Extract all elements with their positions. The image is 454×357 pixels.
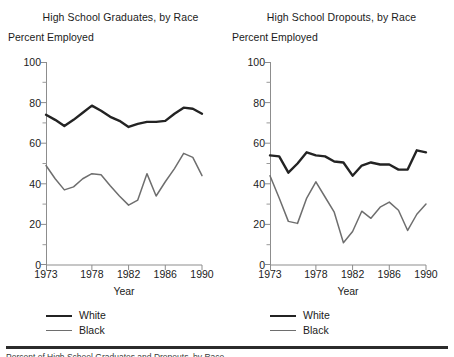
axis-spines	[271, 62, 427, 265]
x-tick-label: 1982	[341, 269, 364, 280]
chart-svg	[46, 62, 202, 265]
y-tick-label: 60	[239, 138, 265, 149]
series-line-black	[46, 153, 202, 205]
y-axis-label-graduates: Percent Employed	[8, 31, 94, 43]
x-tick-label: 1978	[304, 269, 327, 280]
x-tick-label: 1990	[414, 269, 437, 280]
y-tick-label: 20	[239, 219, 265, 230]
chart-svg	[270, 62, 426, 265]
chart-title-graduates: High School Graduates, by Race	[0, 11, 227, 23]
y-tick-label: 100	[15, 57, 41, 68]
x-tick-label: 1973	[34, 269, 57, 280]
y-tick-label: 80	[239, 97, 265, 108]
x-axis-label-dropouts: Year	[270, 285, 426, 297]
figure-root: High School Graduates, by Race Percent E…	[0, 0, 454, 357]
x-tick-label: 1973	[258, 269, 281, 280]
legend-item-black[interactable]: Black	[270, 323, 430, 338]
legend-graduates: White Black	[46, 308, 206, 338]
legend-label-black: Black	[79, 325, 105, 336]
legend-line-black-icon	[270, 330, 296, 331]
x-tick-label: 1986	[154, 269, 177, 280]
x-tick-label: 1978	[80, 269, 103, 280]
legend-item-black[interactable]: Black	[46, 323, 206, 338]
series-line-black	[270, 176, 426, 243]
y-tick-label: 80	[15, 97, 41, 108]
series-line-white	[270, 150, 426, 175]
y-tick-label: 60	[15, 138, 41, 149]
plot-area-graduates: 02040608010019731978198219861990	[46, 62, 202, 265]
x-tick-label: 1982	[117, 269, 140, 280]
y-tick-label: 100	[239, 57, 265, 68]
x-tick-label: 1990	[190, 269, 213, 280]
series-line-white	[46, 106, 202, 127]
legend-line-black-icon	[46, 330, 72, 331]
plot-area-dropouts: 02040608010019731978198219861990	[270, 62, 426, 265]
legend-dropouts: White Black	[270, 308, 430, 338]
legend-label-black: Black	[303, 325, 329, 336]
legend-line-white-icon	[270, 315, 296, 317]
y-tick-label: 20	[15, 219, 41, 230]
y-tick-label: 40	[15, 179, 41, 190]
chart-panel-graduates: High School Graduates, by Race Percent E…	[0, 0, 227, 347]
legend-label-white: White	[303, 310, 330, 321]
legend-item-white[interactable]: White	[46, 308, 206, 323]
figure-footnote: Percent of High School Graduates and Dro…	[6, 352, 448, 357]
y-axis-label-dropouts: Percent Employed	[232, 31, 318, 43]
legend-line-white-icon	[46, 315, 72, 317]
legend-label-white: White	[79, 310, 106, 321]
y-tick-label: 40	[239, 179, 265, 190]
x-tick-label: 1986	[378, 269, 401, 280]
chart-panel-dropouts: High School Dropouts, by Race Percent Em…	[227, 0, 454, 347]
x-axis-label-graduates: Year	[46, 285, 202, 297]
axis-spines	[47, 62, 203, 265]
legend-item-white[interactable]: White	[270, 308, 430, 323]
bottom-divider	[6, 346, 448, 349]
chart-title-dropouts: High School Dropouts, by Race	[227, 11, 454, 23]
